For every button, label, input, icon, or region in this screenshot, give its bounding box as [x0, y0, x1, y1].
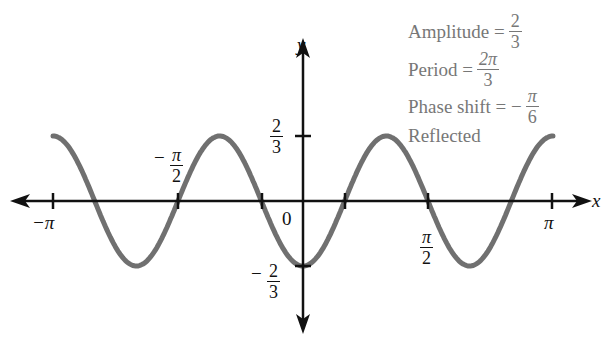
tick-label-pi-half: π 2	[420, 228, 433, 267]
tick-label-neg-two-thirds-sign: −	[251, 263, 262, 285]
annotation-reflected: Reflected	[408, 125, 481, 147]
y-axis-label: y	[297, 34, 305, 56]
tick-label-pi: π	[544, 212, 554, 234]
origin-label: 0	[282, 208, 292, 230]
tick-label-neg-pi-half: π 2	[170, 146, 183, 185]
tick-label-neg-pi: −π	[32, 212, 54, 234]
annotation-period: Period = 2π 3	[408, 50, 499, 89]
tick-label-neg-two-thirds: 2 3	[267, 262, 280, 301]
annotation-amplitude: Amplitude = 2 3	[408, 12, 522, 51]
tick-label-two-thirds: 2 3	[270, 117, 283, 156]
annotation-phase-shift: Phase shift = − π 6	[408, 87, 539, 126]
tick-label-neg-pi-half-sign: −	[154, 147, 165, 169]
x-axis-label: x	[592, 190, 600, 212]
